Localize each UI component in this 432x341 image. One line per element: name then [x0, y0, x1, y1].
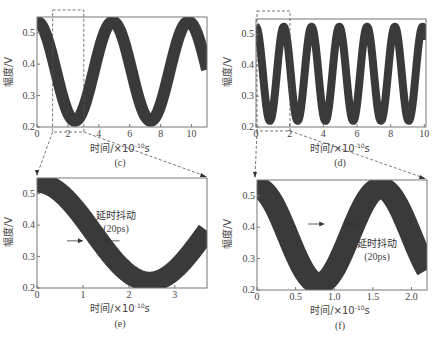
ylabel-e: 幅度/V — [2, 217, 14, 247]
panel-f: 00.51.01.52.00.20.30.40.5 — [243, 180, 428, 302]
y-tick-label: 0.2 — [23, 282, 36, 293]
xlabel-e: 时间/×10-10s — [90, 302, 150, 314]
y-tick-label: 0.2 — [242, 121, 255, 132]
xlabel-c: 时间/×10-10s — [90, 142, 150, 154]
x-tick-label: 2 — [65, 128, 70, 139]
y-tick-label: 0.5 — [23, 188, 36, 199]
signal-trace — [256, 27, 426, 121]
figure: 02468100.20.30.40.5 02468100.20.30.40.5 … — [0, 0, 432, 341]
x-tick-label: 10 — [187, 128, 197, 139]
panel-c: 02468100.20.30.40.5 — [23, 17, 208, 139]
x-tick-label: 8 — [158, 128, 163, 139]
signal-trace — [257, 188, 427, 284]
panel-d: 02468100.20.30.40.5 — [242, 19, 430, 139]
y-tick-label: 0.2 — [243, 284, 256, 295]
y-tick-label: 0.2 — [23, 121, 36, 132]
signal-trace — [37, 22, 207, 121]
x-tick-label: 0.5 — [289, 291, 302, 302]
x-tick-label: 6 — [354, 128, 359, 139]
x-tick-label: 4 — [321, 128, 326, 139]
ylabel-c: 幅度/V — [2, 57, 14, 87]
x-tick-label: 10 — [419, 128, 429, 139]
x-tick-label: 0 — [254, 128, 259, 139]
caption-e: (e) — [114, 318, 125, 330]
annotation-jitter-value-f: (20ps) — [364, 251, 390, 263]
xlabel-d: 时间/×10-10s — [310, 142, 370, 154]
y-tick-label: 0.3 — [23, 251, 36, 262]
ylabel-d: 幅度/V — [221, 57, 233, 87]
annotation-jitter-f: 延时抖动 — [357, 237, 397, 249]
panel-e: 01230.20.30.40.5 — [23, 178, 208, 300]
y-tick-label: 0.3 — [242, 90, 255, 101]
y-tick-label: 0.4 — [242, 59, 255, 70]
x-tick-label: 3 — [172, 289, 177, 300]
x-tick-label: 0 — [35, 289, 40, 300]
x-tick-label: 1 — [80, 289, 85, 300]
y-tick-label: 0.5 — [243, 190, 256, 201]
x-tick-label: 1.0 — [328, 291, 341, 302]
xlabel-f: 时间/×10-10s — [310, 304, 370, 316]
x-tick-label: 1.5 — [367, 291, 380, 302]
y-tick-label: 0.4 — [23, 219, 36, 230]
x-tick-label: 0 — [35, 128, 40, 139]
x-tick-label: 8 — [388, 128, 393, 139]
caption-f: (f) — [335, 320, 345, 332]
x-tick-label: 2.0 — [405, 291, 418, 302]
annotation-jitter-value-e: (20ps) — [103, 223, 129, 235]
x-tick-label: 6 — [127, 128, 132, 139]
x-tick-label: 2 — [126, 289, 131, 300]
y-tick-label: 0.4 — [243, 221, 256, 232]
caption-c: (c) — [114, 157, 125, 169]
caption-d: (d) — [334, 157, 346, 169]
y-tick-label: 0.3 — [23, 90, 36, 101]
y-tick-label: 0.4 — [23, 58, 36, 69]
y-tick-label: 0.5 — [242, 28, 255, 39]
x-tick-label: 0 — [255, 291, 260, 302]
ylabel-f: 幅度/V — [221, 219, 233, 249]
annotation-jitter-e: 延时抖动 — [96, 209, 136, 221]
y-tick-label: 0.3 — [243, 253, 256, 264]
y-tick-label: 0.5 — [23, 27, 36, 38]
